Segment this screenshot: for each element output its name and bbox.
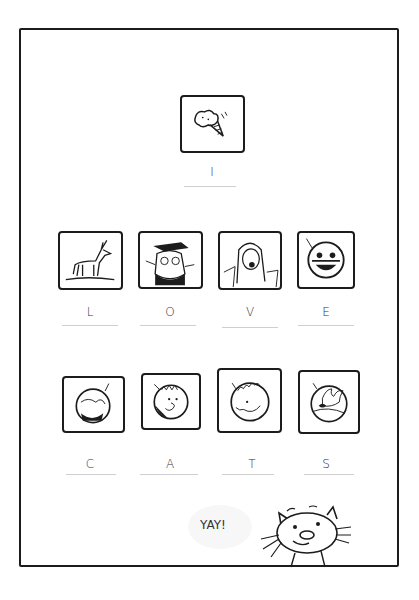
answer-line-V [222, 327, 278, 328]
boy-face-badge-icon [143, 375, 199, 428]
owl-graduate-icon [140, 233, 201, 287]
letter-T: T [222, 457, 282, 471]
letter-L: L [60, 305, 120, 319]
letter-A: A [140, 457, 200, 471]
mask-tile[interactable] [297, 231, 355, 289]
deer-icon [60, 233, 121, 288]
bird-badge-icon [300, 372, 358, 432]
answer-line-A [140, 474, 198, 475]
letter-E: E [296, 305, 356, 319]
curly-hair-badge-icon [219, 370, 280, 431]
answer-line-E [298, 325, 354, 326]
answer-line-S [304, 474, 354, 475]
portrait-tile[interactable] [62, 376, 125, 433]
ice-cream-cone-icon [182, 97, 243, 151]
letter-V: V [220, 305, 280, 319]
masked-face-badge-icon [299, 233, 353, 287]
letter-S: S [296, 457, 356, 471]
ice-cream-tile[interactable] [180, 95, 245, 153]
boy-tile[interactable] [141, 373, 201, 430]
answer-line-O [140, 325, 196, 326]
portrait-badge-icon [64, 378, 123, 431]
letter-I: I [182, 165, 242, 179]
letter-C: C [60, 457, 120, 471]
screaming-woman-icon [220, 233, 280, 288]
answer-line-I [184, 186, 236, 187]
woman-tile[interactable] [218, 231, 282, 290]
speech-text: YAY! [200, 518, 226, 532]
letter-O: O [140, 305, 200, 319]
curly-tile[interactable] [217, 368, 282, 433]
owl-tile[interactable] [138, 231, 203, 289]
answer-line-L [62, 325, 118, 326]
deer-tile[interactable] [58, 231, 123, 290]
smiling-cat-icon [245, 505, 365, 570]
answer-line-T [222, 474, 274, 475]
bird-tile[interactable] [298, 370, 360, 434]
answer-line-C [66, 474, 116, 475]
